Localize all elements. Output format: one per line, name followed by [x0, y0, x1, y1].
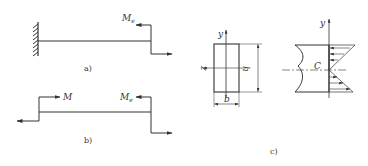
centroid-label: C: [314, 61, 321, 71]
compression-arrows: [330, 48, 350, 60]
tension-arrows: [329, 77, 350, 89]
beam-diagram-figure: Me a) M Me b) y z h b: [0, 0, 368, 166]
moment-label-b-right: Me: [119, 92, 133, 103]
section-b-label: b: [224, 94, 230, 104]
section-h-label: h: [241, 66, 251, 72]
section-z-label: z: [199, 65, 209, 71]
caption-c: c): [270, 147, 278, 156]
stress-distribution: [282, 19, 355, 98]
left-moment-arrow-icon: [17, 97, 60, 121]
moment-label-b-left: M: [62, 92, 73, 102]
cross-section: [203, 30, 262, 107]
caption-a: a): [84, 64, 92, 73]
caption-b: b): [84, 136, 92, 145]
moment-label-a: Me: [121, 13, 135, 24]
stress-triangle: [329, 45, 355, 92]
panel-a: [33, 22, 172, 56]
panel-b: [17, 97, 172, 133]
right-moment-arrow-icon: [136, 97, 172, 133]
stress-y-label: y: [319, 18, 326, 28]
fixed-support-icon: [33, 22, 38, 56]
moment-couple-arrow-icon: [136, 25, 172, 54]
section-y-label: y: [217, 29, 224, 39]
